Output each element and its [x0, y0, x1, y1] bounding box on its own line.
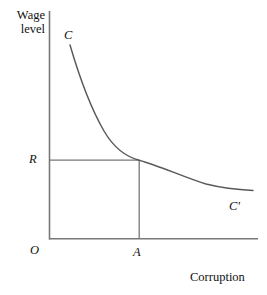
cost-curve — [70, 45, 253, 191]
y-intercept-label: R — [29, 152, 37, 166]
economics-diagram: Wage level Corruption C C' R O A — [0, 0, 267, 295]
origin-label: O — [30, 243, 39, 257]
x-intercept-label: A — [133, 245, 141, 259]
y-axis-title: Wage level — [0, 8, 45, 36]
x-axis-title: Corruption — [190, 270, 245, 284]
curve-start-label: C — [64, 28, 72, 42]
curve-end-label: C' — [229, 199, 240, 213]
